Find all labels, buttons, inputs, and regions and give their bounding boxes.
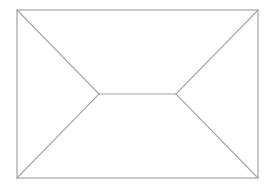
envelope-diagram [0,0,271,186]
top-left-diagonal-line [17,10,99,94]
bottom-right-diagonal-line [176,94,258,178]
top-right-diagonal-line [176,10,258,94]
diagram-canvas [0,0,271,186]
bottom-left-diagonal-line [17,94,99,178]
